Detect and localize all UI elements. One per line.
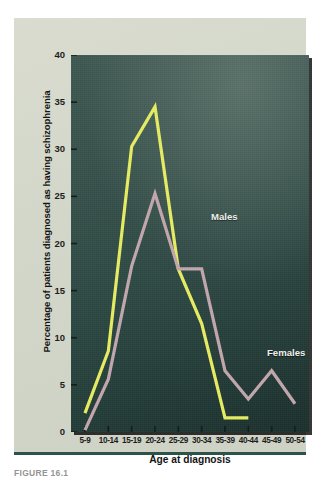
series-line-females <box>85 194 295 431</box>
axis-tick-marks <box>71 55 295 432</box>
x-tick-label: 45-49 <box>262 437 281 445</box>
y-tick-label: 0 <box>39 427 65 437</box>
y-tick-label: 30 <box>39 144 65 154</box>
figure-caption: FIGURE 16.1 <box>14 468 68 478</box>
series-label-females: Females <box>267 347 305 358</box>
y-tick-label: 20 <box>39 239 65 249</box>
x-tick-label: 10-14 <box>99 437 118 445</box>
y-tick-label: 15 <box>39 286 65 296</box>
y-tick-label: 25 <box>39 191 65 201</box>
y-tick-label: 5 <box>39 380 65 390</box>
figure-bottom-rule <box>14 452 306 455</box>
y-tick-label: 40 <box>39 50 65 60</box>
x-tick-label: 30-34 <box>192 437 211 445</box>
x-tick-label: 20-24 <box>145 437 164 445</box>
y-tick-label: 10 <box>39 333 65 343</box>
data-series-group <box>85 107 295 430</box>
x-tick-label: 15-19 <box>122 437 141 445</box>
y-tick-label: 35 <box>39 97 65 107</box>
x-tick-label: 50-54 <box>285 437 304 445</box>
x-tick-label: 25-29 <box>169 437 188 445</box>
x-axis-title: Age at diagnosis <box>71 454 309 465</box>
y-axis-tick-labels: 0510152025303540 <box>35 18 65 455</box>
x-tick-label: 5-9 <box>80 437 91 445</box>
x-axis-tick-labels: 5-910-1415-1920-2425-2930-3435-3940-4445… <box>71 437 309 451</box>
x-tick-label: 40-44 <box>239 437 258 445</box>
figure-plate: Percentage of patients diagnosed as havi… <box>14 18 306 455</box>
chart-plot-area <box>71 55 309 432</box>
plot-panel: Males Females <box>71 55 309 432</box>
series-label-males: Males <box>211 211 238 222</box>
x-tick-label: 35-39 <box>215 437 234 445</box>
